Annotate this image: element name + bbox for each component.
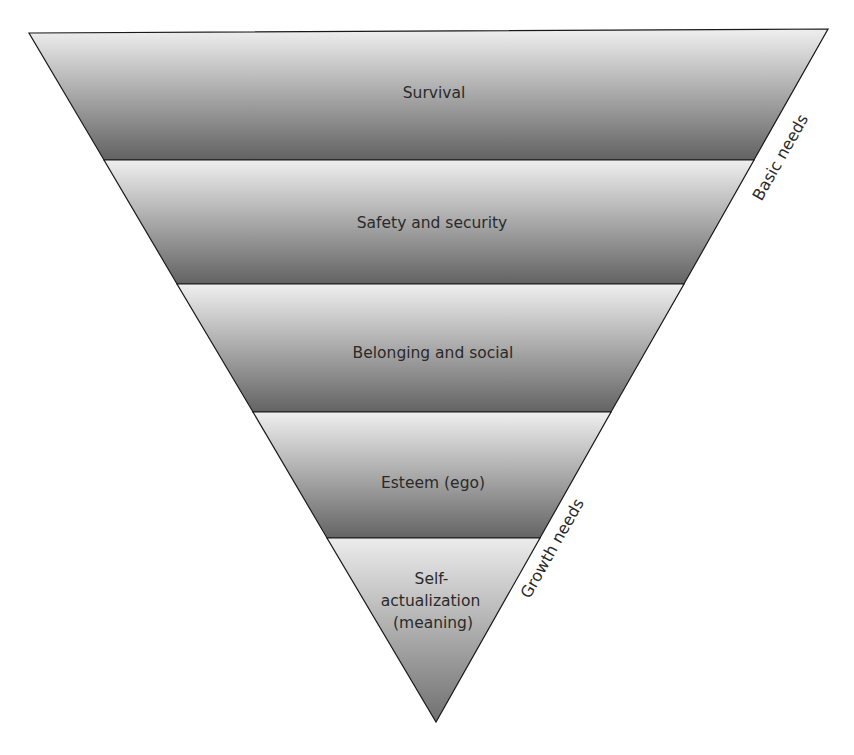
needs-pyramid-diagram: Survival Safety and security Belonging a… xyxy=(0,0,854,755)
label-line-1: Self- xyxy=(415,570,449,588)
level-esteem-label: Esteem (ego) xyxy=(381,474,485,492)
label-line-2: actualization xyxy=(381,592,480,610)
level-belonging-label: Belonging and social xyxy=(353,344,514,362)
level-belonging: Belonging and social xyxy=(177,284,684,412)
level-survival-label: Survival xyxy=(403,84,466,102)
label-line-3: (meaning) xyxy=(393,614,473,632)
level-safety: Safety and security xyxy=(104,160,754,284)
level-safety-label: Safety and security xyxy=(357,214,507,232)
level-survival: Survival xyxy=(29,29,828,160)
level-self-actualization: Self- actualization (meaning) xyxy=(327,538,540,722)
